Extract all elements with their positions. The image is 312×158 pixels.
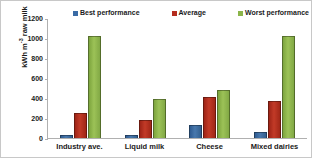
legend-label-best-performance: Best performance bbox=[80, 9, 140, 17]
y-axis-title-exponent: -3 bbox=[18, 38, 24, 43]
y-axis-title: kWh m-3 raw milk bbox=[15, 0, 27, 87]
y-axis-tick-label: 0 bbox=[39, 134, 43, 143]
x-axis-labels: Industry ave.Liquid milkCheeseMixed dair… bbox=[47, 142, 307, 152]
x-axis-label: Liquid milk bbox=[112, 142, 177, 152]
bar-worst-performance[interactable] bbox=[88, 36, 101, 139]
x-axis-label: Cheese bbox=[177, 142, 242, 152]
y-axis-tick-mark bbox=[45, 139, 48, 140]
legend-label-worst-performance: Worst performance bbox=[245, 9, 309, 17]
bar-group bbox=[178, 19, 243, 138]
legend-swatch-average bbox=[172, 11, 177, 16]
legend-label-average: Average bbox=[179, 9, 206, 17]
bar-groups bbox=[48, 19, 307, 138]
bar-group bbox=[242, 19, 307, 138]
bar-best-performance[interactable] bbox=[60, 135, 73, 138]
y-axis-title-base: kWh m bbox=[20, 43, 29, 68]
chart-legend: Best performance Average Worst performan… bbox=[73, 6, 309, 20]
bar-average[interactable] bbox=[203, 97, 216, 138]
bar-average[interactable] bbox=[268, 101, 281, 139]
y-axis-tick-label: 600 bbox=[31, 74, 43, 83]
bar-average[interactable] bbox=[139, 120, 152, 138]
bar-best-performance[interactable] bbox=[125, 135, 138, 138]
x-axis-label: Industry ave. bbox=[47, 142, 112, 152]
y-axis-tick-label: 400 bbox=[31, 94, 43, 103]
bar-best-performance[interactable] bbox=[254, 132, 267, 138]
bar-group bbox=[48, 19, 113, 138]
bar-worst-performance[interactable] bbox=[282, 36, 295, 139]
legend-swatch-worst-performance bbox=[238, 11, 243, 16]
y-axis-tick-label: 1000 bbox=[27, 34, 43, 43]
legend-item-average: Average bbox=[172, 9, 206, 17]
bar-chart: Best performance Average Worst performan… bbox=[0, 0, 312, 158]
plot-area: 120010008006004002000 bbox=[47, 19, 307, 139]
bar-worst-performance[interactable] bbox=[153, 99, 166, 138]
legend-item-worst-performance: Worst performance bbox=[238, 9, 309, 17]
y-axis-tick-label: 800 bbox=[31, 54, 43, 63]
legend-swatch-best-performance bbox=[73, 11, 78, 16]
legend-item-best-performance: Best performance bbox=[73, 9, 140, 17]
y-axis-tick-label: 1200 bbox=[27, 14, 43, 23]
bar-average[interactable] bbox=[74, 113, 87, 138]
x-axis-label: Mixed dairies bbox=[242, 142, 307, 152]
bar-best-performance[interactable] bbox=[189, 125, 202, 138]
bar-worst-performance[interactable] bbox=[217, 90, 230, 139]
y-axis-tick-label: 200 bbox=[31, 114, 43, 123]
bar-group bbox=[113, 19, 178, 138]
